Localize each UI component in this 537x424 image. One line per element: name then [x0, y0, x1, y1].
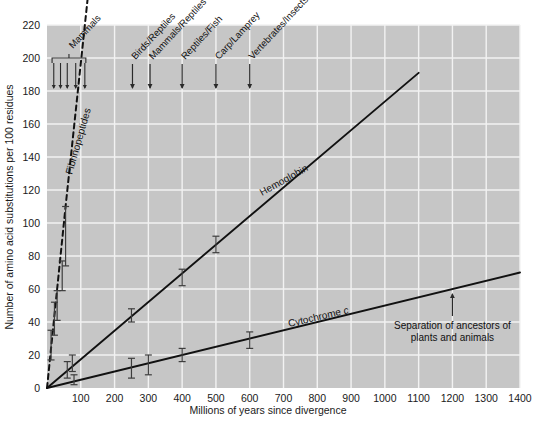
y-tick-label: 40 — [28, 316, 40, 328]
x-tick-label: 1300 — [475, 392, 499, 404]
y-tick-label: 60 — [28, 283, 40, 295]
y-tick-label: 20 — [28, 349, 40, 361]
y-tick-label: 160 — [22, 118, 40, 130]
x-tick-label: 300 — [140, 392, 158, 404]
x-tick-label: 100 — [72, 392, 90, 404]
annotation-line-1: Separation of ancestors of — [394, 320, 511, 331]
y-axis-title: Number of amino acid substitutions per 1… — [3, 84, 15, 329]
x-tick-label: 400 — [173, 392, 191, 404]
y-tick-label: 120 — [22, 184, 40, 196]
x-tick-label: 600 — [241, 392, 259, 404]
x-tick-label: 500 — [207, 392, 225, 404]
x-tick-label: 1200 — [441, 392, 465, 404]
x-tick-label: 900 — [342, 392, 360, 404]
y-tick-label: 80 — [28, 250, 40, 262]
x-tick-label: 1000 — [373, 392, 397, 404]
y-tick-label: 140 — [22, 151, 40, 163]
y-tick-label: 200 — [22, 52, 40, 64]
x-tick-label: 700 — [275, 392, 293, 404]
molecular-clock-chart: 0100200300400500600700800900100011001200… — [0, 0, 537, 424]
x-tick-label: 1400 — [508, 392, 532, 404]
y-tick-label: 180 — [22, 85, 40, 97]
x-tick-label: 200 — [106, 392, 124, 404]
annotation-line-2: plants and animals — [411, 332, 494, 343]
x-tick-label: 0 — [34, 382, 40, 394]
x-tick-label: 800 — [309, 392, 327, 404]
y-tick-label: 100 — [22, 217, 40, 229]
x-tick-label: 1100 — [407, 392, 430, 404]
x-axis-title: Millions of years since divergence — [190, 404, 347, 416]
y-tick-label: 220 — [22, 19, 40, 31]
figure-root: 0100200300400500600700800900100011001200… — [0, 0, 537, 424]
